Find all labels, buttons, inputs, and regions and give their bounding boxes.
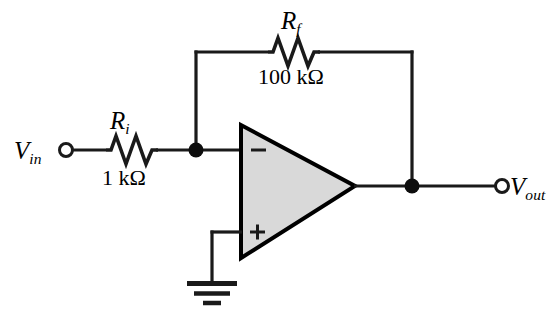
output-voltage-label-main: V xyxy=(510,173,525,200)
input-voltage-label-sub: in xyxy=(29,150,41,167)
input-voltage-label-main: V xyxy=(14,137,29,164)
feedback-resistor-designator-main: R xyxy=(281,7,296,34)
input-resistor-designator: Ri xyxy=(110,108,130,133)
feedback-resistor-value: 100 kΩ xyxy=(258,66,324,88)
circuit-diagram: Vin Vout Rf 100 kΩ Ri 1 kΩ xyxy=(0,0,552,334)
output-voltage-label-sub: out xyxy=(525,186,545,203)
input-voltage-label: Vin xyxy=(14,138,42,163)
circuit-schematic-canvas xyxy=(0,0,552,334)
output-terminal-circle xyxy=(496,180,509,193)
input-resistor-designator-sub: i xyxy=(125,120,129,137)
input-resistor-designator-main: R xyxy=(110,107,125,134)
output-voltage-label: Vout xyxy=(510,174,546,199)
input-resistor-symbol xyxy=(106,136,158,164)
feedback-resistor-designator: Rf xyxy=(281,8,301,33)
output-node-dot xyxy=(405,179,420,194)
feedback-resistor-symbol xyxy=(268,38,320,66)
feedback-resistor-designator-sub: f xyxy=(296,20,300,37)
inverting-node-dot xyxy=(189,143,204,158)
input-terminal-circle xyxy=(60,144,73,157)
input-resistor-value: 1 kΩ xyxy=(102,167,146,189)
